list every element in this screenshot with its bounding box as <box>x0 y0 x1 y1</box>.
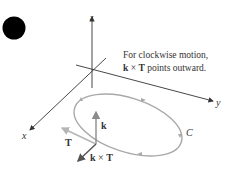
diagram-svg: z y x For clockwise motion, k × T points… <box>0 0 236 177</box>
axis-label-y: y <box>215 97 221 108</box>
diagram-canvas: z y x For clockwise motion, k × T points… <box>0 0 236 177</box>
curve-label-c: C <box>186 127 193 138</box>
axis-label-z: z <box>89 12 94 22</box>
vector-label-t: T <box>65 137 72 148</box>
bullet-dot-icon <box>3 17 26 40</box>
caption-line-1: For clockwise motion, <box>123 50 208 60</box>
vector-label-k-cross-t: k × T <box>90 152 113 163</box>
vector-label-k: k <box>101 120 107 131</box>
axis-label-x: x <box>21 130 27 141</box>
x-axis <box>30 58 106 130</box>
caption-line-2: k × T points outward. <box>123 63 206 73</box>
